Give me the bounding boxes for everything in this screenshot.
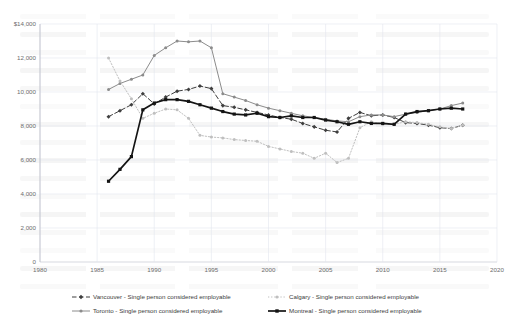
x-axis-tick-label: 2000: [262, 266, 276, 273]
x-axis-tick-labels: 198019851990199520002005201020152020: [33, 266, 504, 273]
chart-legend: Vancouver - Single person considered emp…: [72, 293, 422, 314]
x-axis-tick-label: 2015: [433, 266, 447, 273]
data-point: [347, 157, 350, 160]
x-axis-tick-label: 1980: [33, 266, 47, 273]
data-point: [233, 138, 236, 141]
y-axis-tick-label: 0: [33, 258, 37, 265]
y-axis-tick-label: 6,000: [21, 156, 37, 163]
data-point: [210, 46, 213, 49]
data-point: [221, 110, 224, 113]
data-point: [358, 110, 362, 114]
series-calgary: [107, 57, 464, 165]
data-point: [370, 122, 373, 125]
data-point: [301, 121, 305, 125]
data-point: [198, 40, 201, 43]
x-axis-tick-label: 1985: [90, 266, 104, 273]
data-point: [187, 100, 190, 103]
data-point: [346, 116, 350, 120]
data-point: [290, 114, 293, 117]
series-toronto: [107, 40, 464, 124]
line-chart: 02,0004,0006,0008,00010,00012,000$14,000…: [0, 0, 507, 323]
data-point: [267, 145, 270, 148]
data-point: [244, 108, 248, 112]
y-axis-tick-label: 8,000: [21, 122, 37, 129]
data-point: [107, 115, 111, 119]
series-line: [109, 86, 463, 132]
data-point: [461, 107, 464, 110]
data-point: [275, 295, 278, 298]
data-point: [381, 122, 384, 125]
data-point: [79, 295, 83, 299]
series-line: [109, 41, 463, 122]
legend-item[interactable]: Calgary - Single person considered emplo…: [268, 293, 420, 300]
data-point: [301, 152, 304, 155]
data-point: [233, 96, 236, 99]
data-point: [336, 161, 339, 164]
data-point: [187, 40, 190, 43]
legend-label: Toronto - Single person considered emplo…: [93, 307, 223, 314]
data-point: [210, 107, 213, 110]
data-point: [175, 89, 179, 93]
y-axis-tick-labels: 02,0004,0006,0008,00010,00012,000$14,000: [14, 20, 37, 265]
x-axis-tick-label: 1995: [204, 266, 218, 273]
data-point: [278, 147, 281, 150]
data-point: [198, 103, 201, 106]
data-point: [255, 112, 258, 115]
legend-item[interactable]: Montreal - Single person considered empl…: [268, 307, 422, 314]
data-point: [107, 88, 110, 91]
data-point: [176, 98, 179, 101]
series-montreal: [107, 98, 464, 183]
data-point: [267, 115, 270, 118]
data-point: [153, 112, 156, 115]
data-point: [358, 120, 361, 123]
chart-canvas: 02,0004,0006,0008,00010,00012,000$14,000…: [0, 0, 507, 323]
series-vancouver: [107, 84, 465, 134]
data-point: [427, 123, 430, 126]
y-axis-tick-label: 4,000: [21, 190, 37, 197]
data-point: [313, 116, 316, 119]
x-axis-tick-label: 2010: [376, 266, 390, 273]
data-point: [450, 127, 453, 130]
data-point: [221, 136, 224, 139]
data-point: [312, 125, 316, 129]
data-point: [164, 108, 167, 111]
data-point: [404, 113, 407, 116]
legend-label: Vancouver - Single person considered emp…: [93, 293, 231, 300]
data-point: [187, 87, 191, 91]
x-axis-tick-label: 2020: [490, 266, 504, 273]
data-point: [289, 117, 293, 121]
data-point: [335, 130, 339, 134]
data-point: [244, 139, 247, 142]
series-layer: [107, 40, 465, 183]
data-point: [164, 46, 167, 49]
data-point: [118, 109, 122, 113]
legend-item[interactable]: Toronto - Single person considered emplo…: [72, 307, 223, 314]
data-point: [233, 113, 236, 116]
data-point: [176, 40, 179, 43]
data-point: [416, 121, 419, 124]
data-point: [79, 309, 82, 312]
data-point: [232, 105, 236, 109]
data-point: [381, 113, 384, 116]
data-point: [198, 84, 202, 88]
data-point: [256, 103, 259, 106]
data-point: [393, 115, 396, 118]
data-point: [404, 120, 407, 123]
data-point: [176, 108, 179, 111]
data-point: [438, 125, 441, 128]
data-point: [450, 107, 453, 110]
data-point: [393, 123, 396, 126]
data-point: [244, 113, 247, 116]
data-point: [415, 110, 418, 113]
data-point: [370, 113, 373, 116]
data-point: [107, 180, 110, 183]
x-axis-tick-label: 2005: [319, 266, 333, 273]
data-point: [244, 99, 247, 102]
data-point: [187, 117, 190, 120]
data-point: [278, 109, 281, 112]
y-axis-tick-label: $14,000: [14, 20, 37, 27]
data-point: [164, 98, 167, 101]
legend-item[interactable]: Vancouver - Single person considered emp…: [72, 293, 231, 300]
data-point: [335, 120, 338, 123]
data-point: [358, 115, 361, 118]
